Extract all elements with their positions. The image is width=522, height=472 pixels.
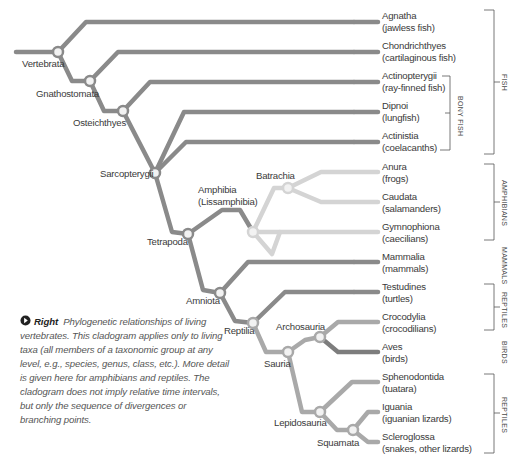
bird-branch — [320, 337, 378, 352]
node-squamata — [348, 425, 358, 435]
node-label-batrachia: Batrachia — [256, 170, 295, 181]
taxon-testudines: Testudines(turtles) — [382, 281, 426, 304]
node-label-lepidosauria: Lepidosauria — [274, 417, 327, 428]
node-label-amphibia: Amphibia(Lissamphibia) — [198, 184, 258, 208]
group-label-fish: FISH — [501, 74, 508, 91]
group-label-reptiles-2: REPTILES — [501, 397, 508, 433]
caption-lead: Right — [34, 316, 58, 327]
group-label-mammals: MAMMALS — [501, 247, 508, 285]
taxon-chondrichthyes: Chondrichthyes(cartilaginous fish) — [382, 40, 456, 63]
group-label-bony-fish: BONY FISH — [457, 96, 464, 136]
taxon-actinopterygii: Actinopterygii(ray-finned fish) — [382, 70, 445, 93]
node-label-vertebrata: Vertebrata — [22, 58, 64, 69]
taxon-actinistia: Actinistia(coelacanths) — [382, 130, 437, 153]
taxon-sphenodontida: Sphenodontida(tuatara) — [382, 371, 444, 394]
amphibian-branches — [253, 172, 378, 254]
taxon-mammalia: Mammalia(mammals) — [382, 251, 428, 274]
taxon-agnatha: Agnatha(jawless fish) — [382, 10, 435, 33]
node-label-sauria: Sauria — [264, 358, 291, 369]
node-batrachia — [283, 183, 293, 193]
caption-text: Phylogenetic relationships of living ver… — [20, 316, 229, 425]
node-label-squamata: Squamata — [317, 437, 359, 448]
node-amphibia — [248, 227, 258, 237]
group-brackets — [440, 10, 500, 453]
figure-caption: Right Phylogenetic relationships of livi… — [20, 315, 230, 427]
taxon-gymnophiona: Gymnophiona(caecilians) — [382, 221, 440, 244]
taxon-crocodylia: Crocodylia(crocodilians) — [382, 311, 436, 334]
caption-arrow-icon — [20, 315, 31, 326]
node-vertebrata — [53, 47, 63, 57]
node-label-sarcopterygii: Sarcopterygii — [100, 168, 153, 179]
main-branches — [16, 22, 354, 323]
group-label-amphibians: AMPHIBIANS — [501, 180, 508, 226]
node-gnathostomata — [85, 76, 95, 86]
node-label-tetrapoda: Tetrapoda — [147, 236, 188, 247]
taxon-dipnoi: Dipnoi(lungfish) — [382, 100, 419, 123]
taxon-caudata: Caudata(salamanders) — [382, 191, 441, 214]
taxon-scleroglossa: Scleroglossa(snakes, other lizards) — [382, 431, 472, 454]
node-label-osteichthyes: Osteichthyes — [73, 117, 126, 128]
group-label-birds: BIRDS — [501, 341, 508, 364]
group-label-reptiles-1: REPTILES — [501, 292, 508, 328]
taxon-anura: Anura(frogs) — [382, 161, 408, 184]
taxon-iguania: Iguania(iguanian lizards) — [382, 401, 451, 424]
node-label-amniota: Amniota — [186, 295, 220, 306]
taxon-aves: Aves(birds) — [382, 341, 408, 364]
node-sauria — [283, 347, 293, 357]
node-osteichthyes — [118, 106, 128, 116]
node-lepidosauria — [315, 407, 325, 417]
node-label-gnathostomata: Gnathostomata — [36, 88, 99, 99]
node-label-archosauria: Archosauria — [276, 321, 325, 332]
node-archosauria — [315, 332, 325, 342]
